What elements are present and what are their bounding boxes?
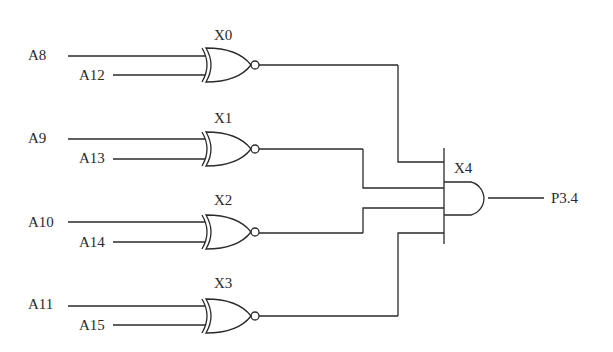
- input-label-a10: A10: [28, 214, 54, 230]
- output-label-p34: P3.4: [551, 190, 579, 206]
- gate-x2: X2 A10 A14: [28, 192, 363, 250]
- xnor-gate-icon: [202, 132, 259, 166]
- input-label-a13: A13: [79, 150, 105, 166]
- input-label-a9: A9: [28, 130, 46, 146]
- logic-diagram: X0 A8 A12 X1 A9 A13 X2 A10 A14 X3 A11 A1…: [0, 0, 613, 352]
- gate-x4: X4 P3.4: [444, 148, 579, 244]
- xnor-gate-icon: [202, 215, 259, 249]
- gate-x3: X3 A11 A15: [28, 275, 398, 333]
- xnor-gate-icon: [202, 48, 259, 82]
- gate-label-x4: X4: [454, 160, 473, 176]
- input-label-a11: A11: [28, 296, 53, 312]
- input-label-a14: A14: [79, 234, 105, 250]
- gate-label-x1: X1: [214, 110, 232, 126]
- and-gate-icon: [444, 182, 484, 215]
- gate-label-x0: X0: [214, 27, 232, 43]
- gate-label-x2: X2: [214, 192, 232, 208]
- input-label-a8: A8: [28, 47, 46, 63]
- gate-x1: X1 A9 A13: [28, 110, 363, 166]
- gate-x0: X0 A8 A12: [28, 27, 398, 83]
- input-label-a12: A12: [79, 67, 105, 83]
- routing-wires: [363, 65, 444, 316]
- gate-label-x3: X3: [214, 275, 232, 291]
- xnor-gate-icon: [202, 299, 259, 333]
- input-label-a15: A15: [79, 317, 105, 333]
